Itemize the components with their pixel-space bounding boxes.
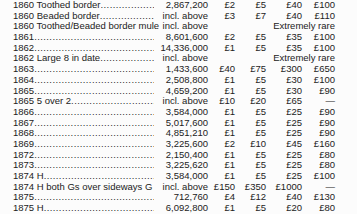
- coin-description-cell: 1863....................................…: [13, 64, 154, 75]
- coin-description-cell: 1866....................................…: [13, 107, 154, 118]
- price-col-1: £1: [208, 75, 235, 86]
- price-col-2: £5: [235, 75, 266, 86]
- table-row: 1875 H..................................…: [13, 203, 335, 214]
- coin-description-cell: 1875 H..................................…: [13, 203, 154, 214]
- dot-leader: ........................................…: [44, 203, 154, 214]
- mintage-value: 6,092,800: [154, 203, 208, 214]
- coin-description: 1864: [13, 75, 34, 86]
- price-col-1: £1: [208, 43, 235, 54]
- coin-description-cell: 1869....................................…: [13, 139, 154, 150]
- dot-leader: ........................................…: [34, 160, 154, 171]
- coin-description-cell: 1860 Toothed/Beaded border mule: [13, 21, 154, 32]
- coin-description: 1875 H: [13, 203, 44, 214]
- dot-leader: ........................................…: [34, 150, 154, 161]
- dot-leader: ........................................…: [34, 107, 154, 118]
- coin-description-cell: 1868....................................…: [13, 128, 154, 139]
- price-col-4: £100: [302, 75, 335, 86]
- dot-leader: ........................................…: [34, 118, 154, 129]
- price-col-2: £5: [235, 203, 266, 214]
- dot-leader: ........................................…: [34, 139, 154, 150]
- price-col-4: £80: [302, 203, 335, 214]
- coin-description: 1860 Toothed/Beaded border mule: [13, 21, 159, 32]
- coin-description-cell: 1872....................................…: [13, 150, 154, 161]
- coin-price-table: 1860 Toothed border.....................…: [13, 0, 335, 214]
- dot-leader: ........................................…: [34, 192, 154, 203]
- dot-leader: ........................................…: [101, 0, 154, 11]
- coin-description-cell: 1874 H both Gs over sideways G: [13, 182, 154, 193]
- price-col-2: £7: [235, 11, 266, 22]
- price-col-2: £5: [235, 43, 266, 54]
- dot-leader: ........................................…: [34, 64, 154, 75]
- coin-description-cell: 1864....................................…: [13, 75, 154, 86]
- price-col-1: £3: [208, 11, 235, 22]
- coin-description-cell: 1861....................................…: [13, 32, 154, 43]
- price-col-3: £20: [266, 203, 302, 214]
- coin-description-cell: 1862 Large 8 in date....................…: [13, 53, 154, 64]
- dot-leader: ........................................…: [34, 128, 154, 139]
- catalog-page: 1860 Toothed border.....................…: [0, 0, 357, 214]
- dot-leader: ........................................…: [34, 32, 154, 43]
- dot-leader: ........................................…: [71, 96, 154, 107]
- table-row: 1866....................................…: [13, 107, 335, 118]
- price-col-3: £30: [266, 75, 302, 86]
- dot-leader: ........................................…: [34, 75, 154, 86]
- coin-description-cell: 1865 5 over 2...........................…: [13, 96, 154, 107]
- mintage-value: 2,508,800: [154, 75, 208, 86]
- table-row: 1864....................................…: [13, 75, 335, 86]
- coin-description-cell: 1867....................................…: [13, 118, 154, 129]
- dot-leader: ........................................…: [100, 53, 154, 64]
- price-col-1: £1: [208, 203, 235, 214]
